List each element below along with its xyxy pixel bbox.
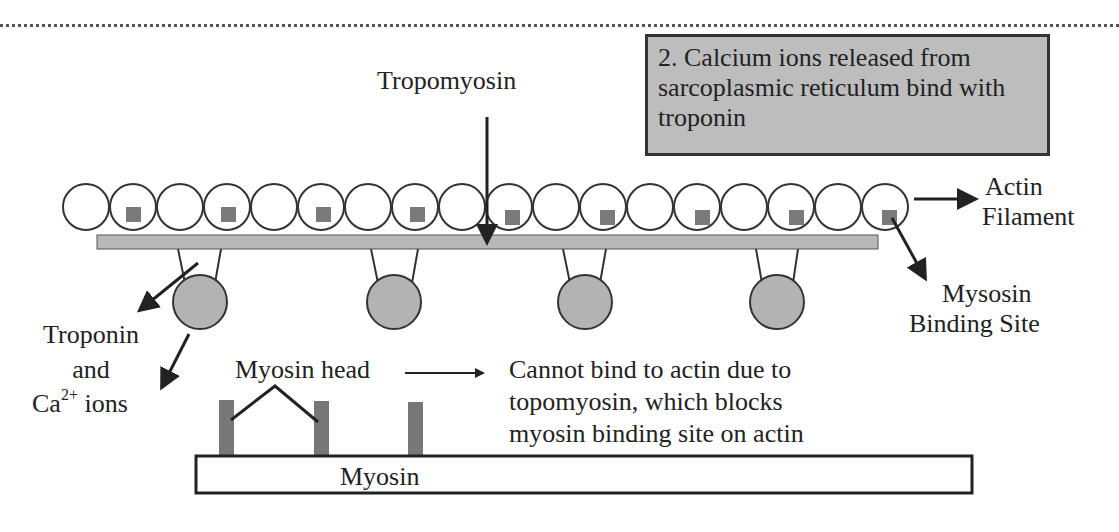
myosin-thick-filament (196, 456, 972, 493)
calcium-release-arrow (162, 334, 189, 387)
ions-word: ions (78, 389, 128, 418)
binding-site-arrow (892, 218, 925, 278)
label-and: and (22, 355, 160, 385)
label-calcium-ions: Ca2+ ions (32, 389, 128, 419)
step-callout: 2. Calcium ions released from sarcoplasm… (645, 34, 1050, 156)
label-cannot-bind-3: myosin binding site on actin (509, 419, 804, 449)
label-filament: Filament (982, 202, 1074, 232)
troponin-complexes (173, 249, 804, 329)
myosin-head-rod (219, 400, 234, 455)
label-myosin-head: Myosin head (235, 355, 370, 385)
label-troponin: Troponin (22, 320, 160, 350)
label-actin: Actin (985, 172, 1043, 202)
myosin-head-rod (408, 402, 423, 455)
label-cannot-bind-2: topomyosin, which blocks (509, 387, 783, 417)
myosin-head-rod (314, 401, 329, 455)
myosin-heads (219, 386, 423, 455)
label-myosin: Myosin (340, 462, 419, 492)
label-tropomyosin: Tropomyosin (377, 66, 516, 96)
calcium-charge: 2+ (61, 386, 78, 403)
label-binding-site-2: Binding Site (909, 309, 1040, 339)
myosin-head-link (231, 386, 318, 422)
arrows (140, 117, 975, 387)
label-cannot-bind-1: Cannot bind to actin due to (509, 355, 791, 385)
calcium-symbol: Ca (32, 389, 61, 418)
label-binding-site-1: Mysosin (942, 279, 1032, 309)
